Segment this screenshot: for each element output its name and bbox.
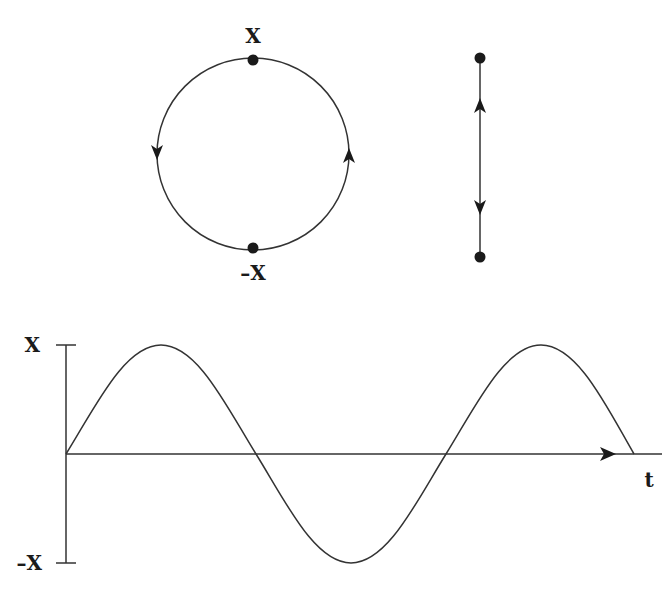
- y-bottom-label: –X: [16, 551, 42, 575]
- y-top-label: X: [24, 333, 40, 357]
- time-plot: X –X t: [16, 333, 662, 575]
- circle-bottom-label: –X: [240, 261, 266, 285]
- bottom-point: [248, 243, 259, 254]
- oscillation-diagram: X –X X –X t: [0, 0, 672, 607]
- phase-circle: X –X: [151, 24, 355, 285]
- segment-bottom-point: [475, 252, 486, 263]
- segment-top-point: [475, 53, 486, 64]
- top-point: [248, 55, 259, 66]
- circle-top-label: X: [245, 24, 261, 48]
- circle-path: [157, 58, 349, 250]
- t-axis-label: t: [644, 468, 654, 492]
- linear-segment: [474, 53, 486, 263]
